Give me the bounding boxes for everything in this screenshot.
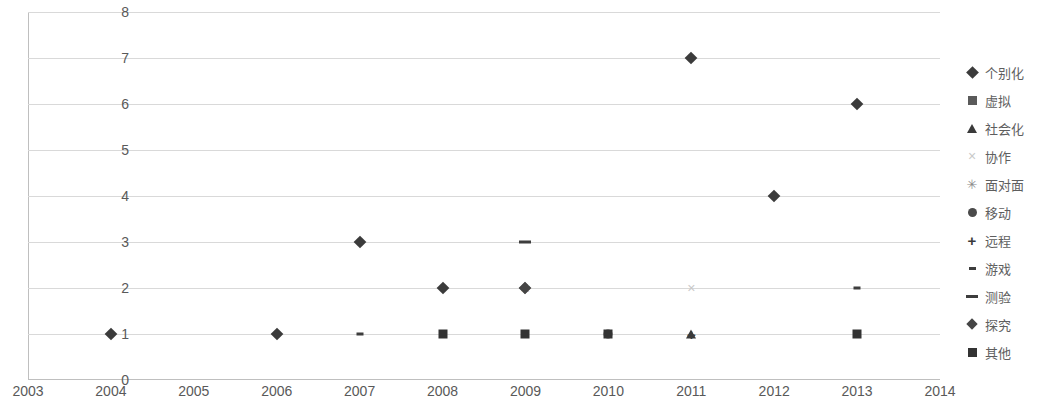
cross-icon: × (962, 149, 982, 163)
x-tick-2012: 2012 (741, 384, 807, 398)
x-tick-2006: 2006 (244, 384, 310, 398)
legend-item-其他[interactable]: 其他 (962, 338, 1063, 366)
legend-item-探究[interactable]: 探究 (962, 310, 1063, 338)
data-point (853, 330, 862, 339)
gridline-y-8 (28, 12, 940, 13)
legend-item-个别化[interactable]: 个别化 (962, 58, 1063, 86)
legend-item-label: 探究 (982, 315, 1011, 334)
diamond-marker-icon (851, 98, 864, 111)
y-tick-7: 7 (105, 51, 129, 65)
diamond-small-icon (962, 320, 982, 328)
diamond-marker-icon (436, 282, 449, 295)
diamond-small-marker-icon (520, 282, 531, 293)
legend-item-协作[interactable]: ×协作 (962, 142, 1063, 170)
plot-area: ×✳+ (28, 12, 940, 380)
x-axis-line (28, 379, 940, 380)
legend-item-label: 远程 (982, 231, 1011, 250)
dash-large-icon (962, 295, 982, 298)
legend-item-label: 社会化 (982, 119, 1024, 138)
y-tick-2: 2 (105, 281, 129, 295)
y-tick-1: 1 (105, 327, 129, 341)
star-icon: ✳ (962, 178, 982, 191)
legend-item-移动[interactable]: 移动 (962, 198, 1063, 226)
x-tick-2007: 2007 (327, 384, 393, 398)
data-point (519, 241, 531, 244)
data-point (854, 287, 861, 290)
x-tick-2011: 2011 (658, 384, 724, 398)
gridline-y-7 (28, 58, 940, 59)
x-tick-2014: 2014 (907, 384, 973, 398)
x-tick-2008: 2008 (410, 384, 476, 398)
x-tick-2010: 2010 (575, 384, 641, 398)
legend-item-面对面[interactable]: ✳面对面 (962, 170, 1063, 198)
data-point (438, 330, 447, 339)
y-tick-5: 5 (105, 143, 129, 157)
data-point (355, 238, 364, 247)
y-tick-6: 6 (105, 97, 129, 111)
data-point (521, 284, 529, 292)
circle-icon (962, 208, 982, 217)
square-filled-marker-icon (604, 330, 613, 339)
triangle-icon (962, 124, 982, 133)
diamond-marker-icon (270, 328, 283, 341)
data-point (521, 330, 530, 339)
square-filled-marker-icon (521, 330, 530, 339)
legend-item-label: 移动 (982, 203, 1011, 222)
legend-item-label: 测验 (982, 287, 1011, 306)
gridline-y-1 (28, 334, 940, 335)
legend-item-label: 协作 (982, 147, 1011, 166)
diamond-marker-icon (353, 236, 366, 249)
plus-icon: + (962, 233, 982, 248)
x-tick-2004: 2004 (78, 384, 144, 398)
legend-item-label: 面对面 (982, 175, 1024, 194)
gridline-y-3 (28, 242, 940, 243)
data-point (272, 330, 281, 339)
data-point (604, 330, 613, 339)
square-filled-icon (962, 348, 982, 357)
dash-small-icon (962, 267, 982, 270)
diamond-marker-icon (685, 52, 698, 65)
data-point (853, 100, 862, 109)
chart-page: ×✳+ 012345678 20032004200520062007200820… (0, 0, 1063, 412)
diamond-icon (962, 68, 982, 77)
legend-item-游戏[interactable]: 游戏 (962, 254, 1063, 282)
square-filled-marker-icon (438, 330, 447, 339)
data-point (687, 54, 696, 63)
square-filled-marker-icon (853, 330, 862, 339)
gridline-y-5 (28, 150, 940, 151)
diamond-marker-icon (768, 190, 781, 203)
square-icon (962, 96, 982, 105)
dash-small-marker-icon (356, 333, 363, 336)
dash-large-marker-icon (519, 241, 531, 244)
chart-legend: 个别化虚拟社会化×协作✳面对面移动+远程游戏测验探究其他 (962, 58, 1063, 366)
cross-marker-icon: × (687, 281, 695, 295)
legend-item-远程[interactable]: +远程 (962, 226, 1063, 254)
data-point: + (687, 327, 696, 342)
gridline-y-6 (28, 104, 940, 105)
legend-item-label: 游戏 (982, 259, 1011, 278)
y-tick-4: 4 (105, 189, 129, 203)
plus-marker-icon: + (687, 327, 696, 342)
legend-item-测验[interactable]: 测验 (962, 282, 1063, 310)
data-point (438, 284, 447, 293)
legend-item-label: 其他 (982, 343, 1011, 362)
x-tick-2009: 2009 (492, 384, 558, 398)
x-tick-2013: 2013 (824, 384, 890, 398)
data-point: × (687, 281, 695, 295)
legend-item-label: 个别化 (982, 63, 1024, 82)
y-tick-8: 8 (105, 5, 129, 19)
x-tick-2005: 2005 (161, 384, 227, 398)
legend-item-虚拟[interactable]: 虚拟 (962, 86, 1063, 114)
gridline-y-2 (28, 288, 940, 289)
data-point (356, 333, 363, 336)
legend-item-label: 虚拟 (982, 91, 1011, 110)
legend-item-社会化[interactable]: 社会化 (962, 114, 1063, 142)
x-tick-2003: 2003 (0, 384, 61, 398)
dash-small-marker-icon (854, 287, 861, 290)
gridline-y-4 (28, 196, 940, 197)
data-point (770, 192, 779, 201)
y-tick-3: 3 (105, 235, 129, 249)
